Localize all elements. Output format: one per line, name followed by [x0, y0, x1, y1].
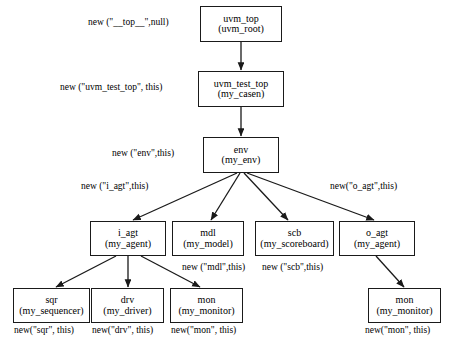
node-drv[interactable]: drv(my_driver)	[91, 288, 164, 323]
edge-label-lbl_o_agt: new("o_agt",this)	[330, 182, 397, 192]
node-title: mdl	[200, 228, 216, 239]
node-scb[interactable]: scb(my_scoreboard)	[255, 221, 334, 256]
node-i_agt[interactable]: i_agt(my_agent)	[90, 221, 166, 256]
edge-label-lbl_scb: new ("scb",this)	[262, 263, 323, 273]
node-subtitle: (my_monitor)	[376, 306, 432, 317]
node-subtitle: (my_driver)	[103, 306, 151, 317]
node-subtitle: (my_model)	[183, 239, 232, 250]
node-title: drv	[121, 295, 134, 306]
node-title: scb	[288, 228, 301, 239]
node-mon_o[interactable]: mon(my_monitor)	[368, 288, 441, 323]
edge-i_agt-sqr	[56, 256, 116, 287]
node-uvm_top[interactable]: uvm_top(uvm_root)	[200, 6, 282, 42]
edge-env-scb	[244, 173, 288, 220]
edge-label-lbl_sqr: new("sqr", this)	[14, 326, 74, 336]
node-subtitle: (my_scoreboard)	[260, 239, 328, 250]
edge-label-lbl_mon_o: new("mon", this)	[365, 326, 430, 336]
edge-label-lbl_test_top: new ("uvm_test_top", this)	[60, 83, 162, 93]
edge-label-lbl_env: new ("env",this)	[112, 149, 174, 159]
node-subtitle: (my_env)	[222, 155, 261, 166]
edge-o_agt-mon_o	[376, 256, 404, 287]
diagram-canvas: uvm_top(uvm_root)uvm_test_top(my_casen)e…	[0, 0, 453, 348]
node-title: i_agt	[118, 228, 138, 239]
node-subtitle: (my_casen)	[218, 89, 265, 100]
node-subtitle: (my_agent)	[105, 239, 151, 250]
edge-label-lbl_drv: new("drv", this)	[92, 326, 153, 336]
edge-label-lbl_mdl: new ("mdl",this)	[182, 263, 245, 273]
node-title: sqr	[45, 295, 57, 306]
node-sqr[interactable]: sqr(my_sequencer)	[13, 288, 90, 323]
edge-label-lbl_mon_i: new("mon", this)	[171, 326, 236, 336]
node-subtitle: (my_sequencer)	[19, 306, 83, 317]
node-uvm_test_top[interactable]: uvm_test_top(my_casen)	[198, 71, 284, 107]
edge-env-i_agt	[133, 173, 237, 220]
node-subtitle: (my_agent)	[354, 239, 400, 250]
node-env[interactable]: env(my_env)	[203, 137, 279, 173]
edge-label-lbl_i_agt: new ("i_agt",this)	[81, 182, 148, 192]
node-title: o_agt	[366, 228, 388, 239]
node-title: mon	[396, 295, 414, 306]
node-mdl[interactable]: mdl(my_model)	[172, 221, 244, 256]
node-o_agt[interactable]: o_agt(my_agent)	[339, 221, 415, 256]
node-title: mon	[198, 295, 216, 306]
node-subtitle: (uvm_root)	[218, 24, 264, 35]
node-mon_i[interactable]: mon(my_monitor)	[170, 288, 243, 323]
edge-env-mdl	[211, 173, 240, 220]
node-subtitle: (my_monitor)	[178, 306, 234, 317]
edge-label-lbl_top: new ("__top__",null)	[88, 18, 169, 28]
